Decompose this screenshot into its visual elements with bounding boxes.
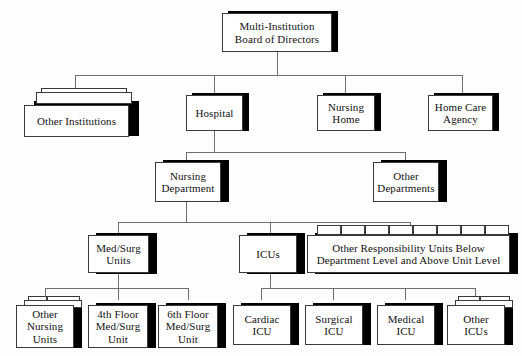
connector-to-other-institutions [75,75,76,88]
connector-level3-bus [186,152,405,153]
node-board[interactable]: Multi-Institution Board of Directors [222,13,332,52]
node-nursing-home-label: Nursing Home [327,101,365,126]
node-home-care-agency-label: Home Care Agency [434,101,487,126]
node-4th-floor-med-surg-label: 4th Floor Med/Surg Unit [95,308,142,345]
connector-to-other-icus [475,288,476,296]
node-cardiac-icu[interactable]: Cardiac ICU [233,305,291,345]
connector-level5-medsurg-bus [45,288,188,289]
other-responsibility-stack-divider-4 [412,225,414,235]
node-med-surg-units-label: Med/Surg Units [95,242,142,267]
connector-to-4th-floor [118,288,119,300]
node-medical-icu-label: Medical ICU [387,313,426,338]
connector-nursing-department-down [186,202,187,222]
connector-to-6th-floor [188,288,189,300]
node-other-institutions[interactable]: Other Institutions [24,105,129,137]
node-other-responsibility-units[interactable]: Other Responsibility Units Below Departm… [307,235,510,273]
connector-med-surg-down [118,273,119,288]
node-home-care-agency[interactable]: Home Care Agency [428,95,493,131]
connector-hospital-down [214,131,215,152]
node-surgical-icu-label: Surgical ICU [314,313,353,338]
node-other-departments[interactable]: Other Departments [373,162,439,202]
connector-to-other-nursing-units [45,288,46,296]
node-nursing-home[interactable]: Nursing Home [317,95,375,131]
other-responsibility-stack-divider-2 [364,225,366,235]
node-hospital[interactable]: Hospital [186,95,243,131]
connector-to-medical-icu [405,288,406,300]
connector-to-surgical-icu [333,288,334,300]
connector-level5-icu-bus [261,288,475,289]
node-surgical-icu[interactable]: Surgical ICU [305,305,363,345]
node-icus-label: ICUs [255,248,281,260]
node-cardiac-icu-label: Cardiac ICU [244,313,281,338]
node-6th-floor-med-surg-label: 6th Floor Med/Surg Unit [165,308,212,345]
node-medical-icu[interactable]: Medical ICU [377,305,435,345]
node-other-institutions-label: Other Institutions [36,115,117,127]
node-nursing-department-label: Nursing Department [161,170,216,195]
node-icus[interactable]: ICUs [239,235,297,273]
connector-to-cardiac-icu [261,288,262,300]
node-other-responsibility-units-label: Other Responsibility Units Below Departm… [316,242,502,267]
node-other-icus-label: Other ICUs [462,313,490,338]
connector-level2-bus [75,75,462,76]
node-other-nursing-units-label: Other Nursing Units [26,308,64,345]
connector-to-hospital [214,75,215,95]
node-other-departments-label: Other Departments [376,170,435,195]
org-chart-diagram: Multi-Institution Board of Directors Oth… [0,0,522,356]
other-institutions-stack-mid [36,92,132,104]
connector-icus-down [270,273,271,288]
connector-to-home-care-agency [462,75,463,95]
connector-level4-bus [118,222,410,223]
node-other-icus[interactable]: Other ICUs [447,305,505,345]
other-responsibility-stack-divider-5 [436,225,438,235]
node-board-label: Multi-Institution Board of Directors [234,20,320,45]
node-other-nursing-units[interactable]: Other Nursing Units [16,305,74,348]
connector-board-down [277,52,278,75]
other-responsibility-stack-divider-1 [340,225,342,235]
other-responsibility-stack-divider-7 [484,225,486,235]
node-med-surg-units[interactable]: Med/Surg Units [88,235,149,273]
node-4th-floor-med-surg[interactable]: 4th Floor Med/Surg Unit [88,305,148,348]
node-hospital-label: Hospital [194,107,234,119]
node-6th-floor-med-surg[interactable]: 6th Floor Med/Surg Unit [158,305,218,348]
other-responsibility-stack-divider-3 [388,225,390,235]
connector-to-nursing-home [345,75,346,95]
other-responsibility-stack-divider-6 [460,225,462,235]
node-nursing-department[interactable]: Nursing Department [155,162,221,202]
